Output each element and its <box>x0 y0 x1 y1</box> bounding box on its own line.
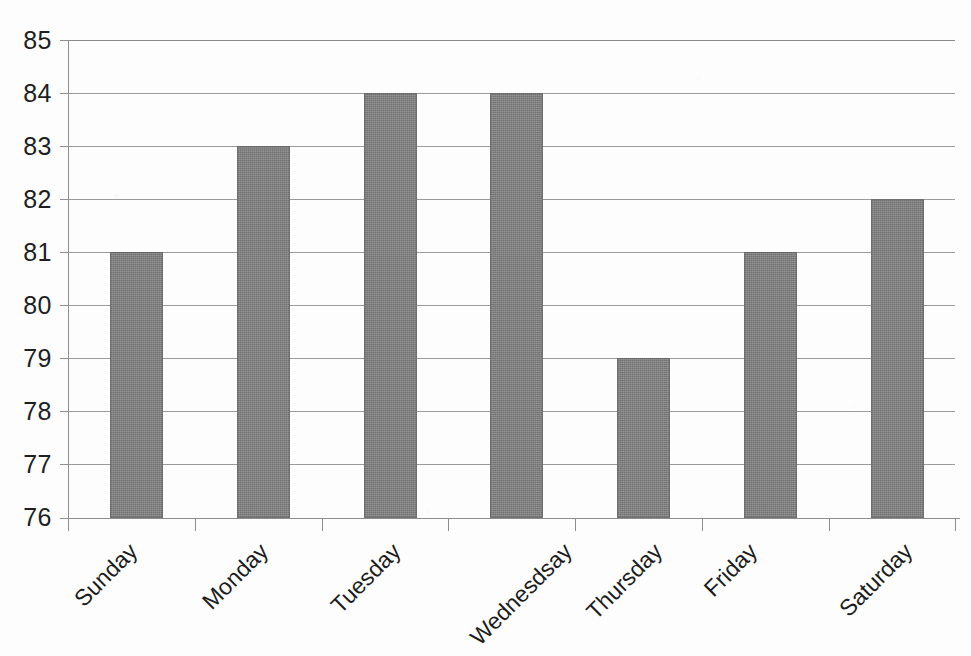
x-axis-label-monday: Monday <box>197 538 274 615</box>
chart-page: 85 84 83 82 81 80 79 78 77 76 <box>0 0 971 656</box>
x-axis-label-thursday: Thursday <box>581 538 668 625</box>
x-axis-label-wednesdsay: Wednesdsay <box>465 538 578 651</box>
x-axis-label-friday: Friday <box>699 538 763 602</box>
x-axis-labels: Sunday Monday Tuesday Wednesdsay Thursda… <box>0 0 971 656</box>
x-axis-label-sunday: Sunday <box>69 538 143 612</box>
x-axis-label-tuesday: Tuesday <box>326 538 407 619</box>
x-axis-label-saturday: Saturday <box>834 538 918 622</box>
